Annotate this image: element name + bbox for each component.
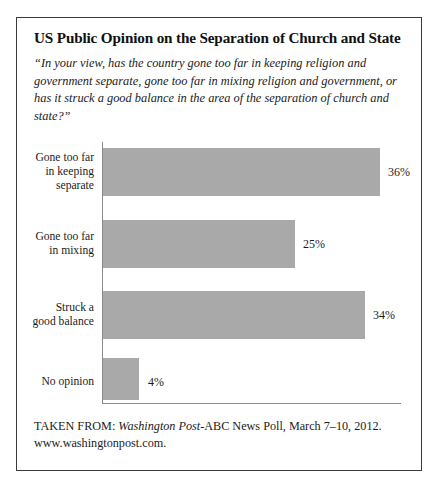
bar-chart-plot: Gone too far in keeping separate 36% Gon… <box>17 136 423 408</box>
bar-row: Struck a good balance 34% <box>17 291 423 339</box>
bar <box>103 358 139 400</box>
source-url: www.washingtonpost.com. <box>34 436 166 450</box>
bar-category-label: No opinion <box>0 375 94 389</box>
bar-value-label: 34% <box>373 308 395 323</box>
bar-row: Gone too far in mixing 25% <box>17 220 423 268</box>
poll-question: “In your view, has the country gone too … <box>34 55 408 125</box>
bar-value-label: 36% <box>388 165 410 180</box>
bar-category-label: Struck a good balance <box>0 301 94 329</box>
figure-frame: US Public Opinion on the Separation of C… <box>16 17 422 471</box>
figure-inner: US Public Opinion on the Separation of C… <box>17 18 421 470</box>
source-publication: Washington Post <box>118 419 200 433</box>
source-rest: -ABC News Poll, March 7–10, 2012. <box>200 419 381 433</box>
bar-row: Gone too far in keeping separate 36% <box>17 148 423 196</box>
bar-category-label: Gone too far in keeping separate <box>0 151 94 193</box>
page-title: US Public Opinion on the Separation of C… <box>34 29 406 46</box>
bar-row: No opinion 4% <box>17 358 423 406</box>
bar-value-label: 25% <box>303 237 325 252</box>
bar <box>103 220 295 268</box>
bar-value-label: 4% <box>148 375 164 390</box>
source-prefix: TAKEN FROM: <box>34 419 118 433</box>
bar-category-label: Gone too far in mixing <box>0 230 94 258</box>
bar <box>103 291 365 339</box>
bar <box>103 148 380 196</box>
source-attribution: TAKEN FROM: Washington Post-ABC News Pol… <box>34 418 410 452</box>
